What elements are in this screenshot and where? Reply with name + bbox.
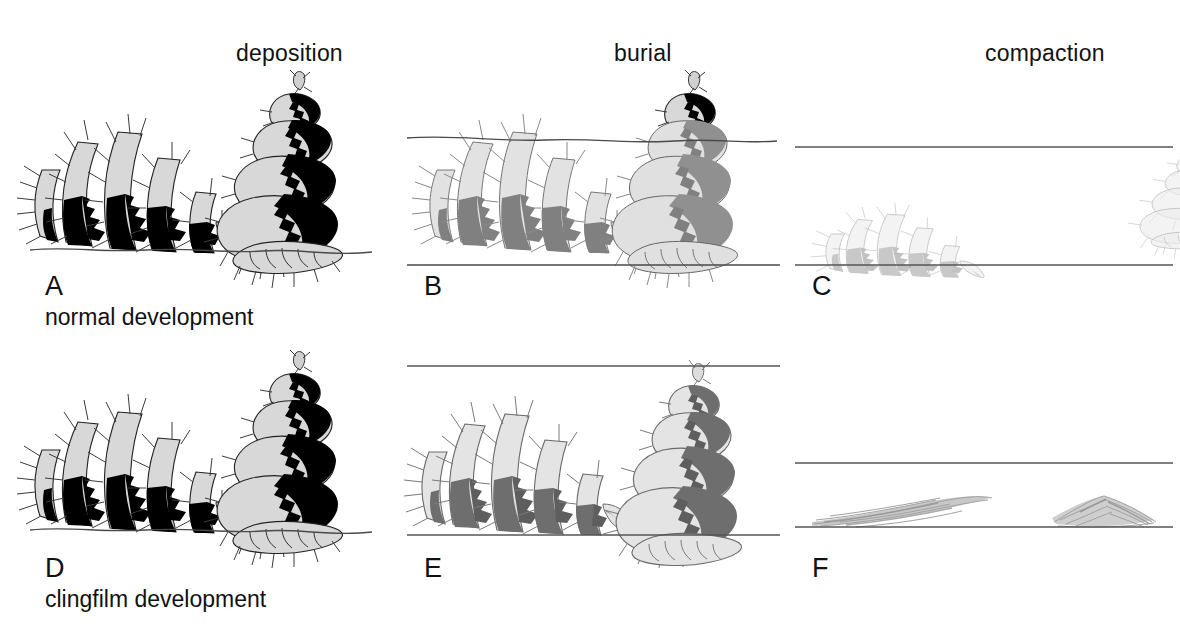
panel-letter-E: E — [424, 553, 442, 584]
panel-A-illustration — [0, 70, 395, 270]
flattened-smear-right-F — [1052, 496, 1156, 527]
conical-helix-E — [603, 360, 741, 568]
panel-D-illustration — [0, 350, 395, 550]
panel-A-deposition-normal — [0, 70, 395, 270]
conical-helix-A — [204, 70, 342, 288]
panel-B-burial-normal — [395, 70, 790, 270]
conical-helix-B — [599, 70, 737, 288]
panel-letter-A: A — [45, 271, 63, 302]
row-caption-normal-development: normal development — [45, 304, 253, 331]
panel-letter-D: D — [45, 553, 65, 584]
collapsed-helix-C — [811, 203, 984, 278]
panel-D-deposition-clingfilm — [0, 350, 395, 550]
row-caption-clingfilm-development: clingfilm development — [45, 586, 266, 613]
panel-E-illustration — [395, 350, 790, 550]
column-header-deposition: deposition — [236, 40, 343, 67]
conical-helix-C — [1128, 141, 1180, 259]
column-header-compaction: compaction — [985, 40, 1105, 67]
taphonomy-figure: deposition burial compaction — [0, 0, 1180, 637]
collapsed-helix-E — [404, 396, 636, 536]
panel-B-illustration — [395, 70, 790, 270]
panel-F-compaction-clingfilm — [790, 350, 1180, 550]
panel-letter-C: C — [812, 271, 832, 302]
conical-helix-D — [204, 350, 342, 568]
panel-letter-B: B — [424, 271, 442, 302]
flattened-smear-left-F — [812, 497, 992, 527]
panel-letter-F: F — [812, 553, 829, 584]
column-header-burial: burial — [614, 40, 671, 67]
panel-F-illustration — [790, 350, 1180, 550]
panel-E-burial-clingfilm — [395, 350, 790, 550]
panel-C-compaction-normal — [790, 70, 1180, 270]
panel-C-illustration — [790, 70, 1180, 270]
